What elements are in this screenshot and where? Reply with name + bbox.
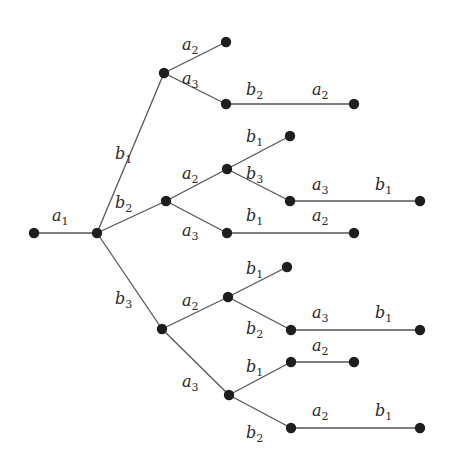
node-b3a3 [224, 390, 234, 400]
edge-label: a1 [52, 206, 69, 228]
node-b3a3b2a2 [415, 423, 425, 433]
node-b3a3b1a2 [349, 357, 359, 367]
tree-diagram: a1b1a2a3b2a2b2a2b1b3a3b1a3b1a2b3a2b1b2a3… [0, 0, 451, 459]
edge-label: b1 [246, 357, 263, 379]
edge-label: a2 [312, 206, 329, 228]
edge-label: a2 [182, 291, 199, 313]
edge-label: b3 [246, 164, 263, 186]
node-b1a2 [221, 37, 231, 47]
edge-label: a3 [312, 175, 329, 197]
node-b3a2b2a3 [415, 325, 425, 335]
edge-label: b1 [375, 175, 392, 197]
node-b3a2b1 [282, 262, 292, 272]
edge-n1-b3 [97, 233, 162, 329]
node-b2a2b3a3 [415, 196, 425, 206]
edge-label: a2 [182, 164, 199, 186]
edge-label: a3 [182, 221, 199, 243]
edge-label: a2 [182, 35, 199, 57]
node-b2a3 [222, 228, 232, 238]
edge-label: a2 [312, 336, 329, 358]
edge-label: b1 [115, 144, 132, 166]
node-b3a3b2 [286, 423, 296, 433]
edge-label: b1 [246, 127, 263, 149]
labels-layer: a1b1a2a3b2a2b2a2b1b3a3b1a3b1a2b3a2b1b2a3… [52, 35, 392, 445]
edge-label: b1 [246, 206, 263, 228]
node-b1a3b2 [349, 99, 359, 109]
edge-label: b3 [115, 289, 132, 311]
edge-label: a2 [312, 401, 329, 423]
node-b3a2b2 [286, 325, 296, 335]
edge-label: b1 [246, 259, 263, 281]
edge-label: a2 [312, 80, 329, 102]
node-b2a3b1 [349, 228, 359, 238]
nodes-layer [29, 37, 425, 433]
node-b2a2b3 [285, 196, 295, 206]
node-r [29, 228, 39, 238]
edge-b2-b2a3 [166, 201, 227, 233]
edge-label: b1 [375, 401, 392, 423]
edge-b3a3-b3a3b2 [229, 395, 291, 428]
node-b2 [161, 196, 171, 206]
node-n1 [92, 228, 102, 238]
node-b2a2 [222, 164, 232, 174]
node-b1a3 [221, 99, 231, 109]
edge-label: b2 [115, 193, 132, 215]
edge-label: b2 [246, 80, 263, 102]
node-b1 [159, 68, 169, 78]
node-b3 [157, 324, 167, 334]
node-b3a2 [223, 292, 233, 302]
edge-label: a3 [182, 69, 199, 91]
edge-label: a3 [312, 303, 329, 325]
edge-label: b2 [246, 319, 263, 341]
edge-label: b2 [246, 423, 263, 445]
edge-b3a2-b3a2b2 [228, 297, 291, 330]
node-b2a2b1 [285, 131, 295, 141]
node-b3a3b1 [286, 357, 296, 367]
edge-label: a3 [182, 372, 199, 394]
edge-label: b1 [375, 303, 392, 325]
